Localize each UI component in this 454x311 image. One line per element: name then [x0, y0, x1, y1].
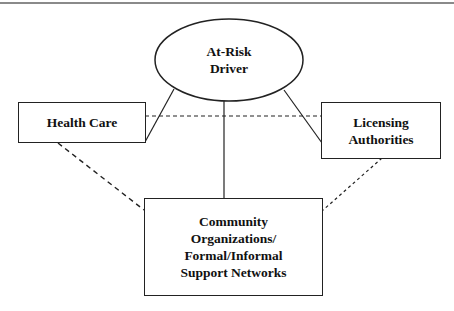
- node-label-line: Formal/Informal: [180, 247, 286, 264]
- node-label-line: At-Risk: [206, 43, 251, 60]
- node-label-line: Support Networks: [180, 264, 286, 281]
- node-label-line: Community: [180, 213, 286, 230]
- node-label-line: Authorities: [348, 131, 413, 148]
- node-label-line: Licensing: [348, 114, 413, 131]
- node-community-organizations: Community Organizations/ Formal/Informal…: [144, 198, 323, 296]
- edge-left-bottom-dashed: [58, 143, 144, 210]
- node-label-line: Driver: [206, 60, 251, 77]
- node-label-line: Organizations/: [180, 230, 286, 247]
- node-health-care: Health Care: [18, 102, 146, 143]
- node-licensing-authorities: Licensing Authorities: [321, 102, 441, 159]
- edge-right-bottom-dashed: [322, 158, 382, 211]
- node-label-line: Health Care: [47, 114, 118, 131]
- node-at-risk-driver: At-Risk Driver: [170, 38, 288, 82]
